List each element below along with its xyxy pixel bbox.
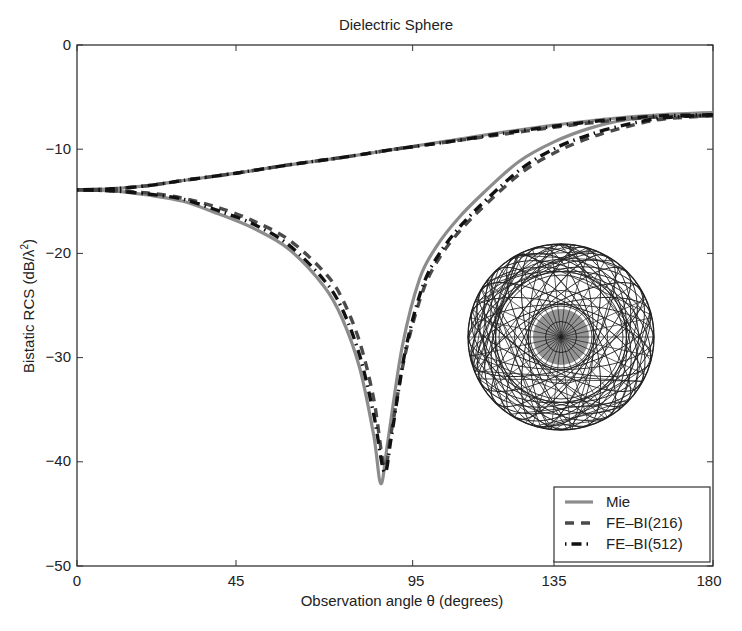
y-tick-label: −40	[46, 452, 71, 469]
chart-title: Dielectric Sphere	[339, 16, 453, 33]
y-axis-label-main: Bistatic RCS (dB/λ	[20, 249, 37, 373]
x-tick-label: 0	[73, 572, 81, 589]
x-tick-label: 180	[696, 572, 721, 589]
x-tick-label: 95	[408, 572, 425, 589]
y-tick-label: −10	[46, 140, 71, 157]
y-tick-label: −30	[46, 348, 71, 365]
y-axis-label: Bistatic RCS (dB/λ2)	[19, 239, 37, 373]
legend-label-mie: Mie	[606, 493, 630, 510]
legend-label-febi216: FE–BI(216)	[606, 514, 683, 531]
x-tick-labels: 0 45 95 135 180	[73, 572, 722, 589]
x-tick-label: 135	[541, 572, 566, 589]
y-tick-label: −50	[46, 557, 71, 574]
y-tick-label: 0	[63, 36, 71, 53]
legend-label-febi512: FE–BI(512)	[606, 535, 683, 552]
legend: Mie FE–BI(216) FE–BI(512)	[554, 487, 710, 562]
curve-fe-bi-216-	[77, 116, 713, 190]
x-tick-label: 45	[228, 572, 245, 589]
curve-fe-bi-512-	[77, 115, 713, 190]
curve-mie	[77, 113, 713, 190]
x-axis-label: Observation angle θ (degrees)	[301, 592, 504, 609]
y-tick-labels: 0 −10 −20 −30 −40 −50	[46, 36, 71, 574]
rcs-chart: Dielectric Sphere 0 45 95 135 180 0 −10 …	[0, 0, 742, 631]
sphere-mesh-inset	[448, 224, 675, 451]
y-axis-label-end: )	[20, 239, 37, 244]
y-tick-label: −20	[46, 244, 71, 261]
curve-fe-bi-216-	[77, 116, 713, 468]
curve-fe-bi-512-	[77, 115, 713, 473]
